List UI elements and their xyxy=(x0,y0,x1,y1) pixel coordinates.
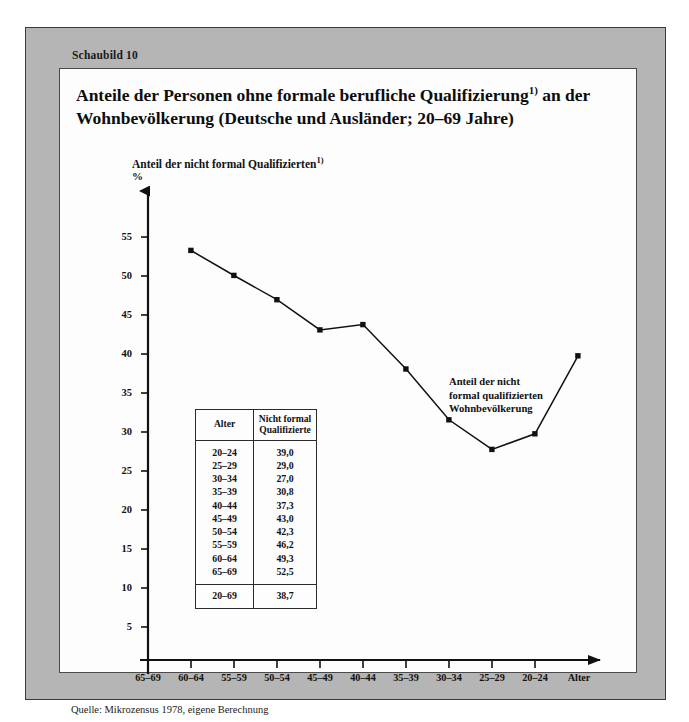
table-cell-value: 43,0 xyxy=(254,513,316,526)
table-row: 40–4437,3 xyxy=(196,499,316,512)
table-cell-age: 50–54 xyxy=(196,526,254,539)
figure-page: Schaubild 10 Anteile der Personen ohne f… xyxy=(0,0,689,722)
table-header-row: Alter Nicht formal Qualifizierte xyxy=(196,410,316,441)
x-tick-label: 20–24 xyxy=(513,672,557,683)
table-row: 35–3930,8 xyxy=(196,486,316,499)
annotation-line-1: Anteil der nicht xyxy=(449,376,520,387)
column-header-line-2: Qualifizierte xyxy=(259,424,311,435)
column-header-unqualified: Nicht formal Qualifizierte xyxy=(254,410,316,441)
table-cell-age: 55–59 xyxy=(196,539,254,552)
table-cell-value: 46,2 xyxy=(254,539,316,552)
y-tick-label: 25 xyxy=(110,465,132,476)
y-tick-label: 10 xyxy=(110,582,132,593)
table-row: 25–2929,0 xyxy=(196,460,316,473)
table-row: 55–5946,2 xyxy=(196,539,316,552)
x-tick-label: 45–49 xyxy=(298,672,342,683)
chart-panel: Anteile der Personen ohne formale berufl… xyxy=(59,68,637,673)
column-header-age: Alter xyxy=(196,410,254,441)
x-tick-label: 25–29 xyxy=(470,672,514,683)
table-row: 65–6952,5 xyxy=(196,566,316,579)
table-cell-value: 49,3 xyxy=(254,552,316,565)
x-tick-label: 40–44 xyxy=(341,672,385,683)
table-cell-value: 29,0 xyxy=(254,460,316,473)
table-cell-age: 30–34 xyxy=(196,473,254,486)
table-cell-age: 25–29 xyxy=(196,460,254,473)
y-tick-label: 30 xyxy=(110,426,132,437)
table-cell-value: 42,3 xyxy=(254,526,316,539)
x-tick-label: 30–34 xyxy=(427,672,471,683)
table-cell-age: 60–64 xyxy=(196,552,254,565)
table-cell-value: 39,0 xyxy=(254,446,316,459)
column-header-line-1: Nicht formal xyxy=(259,413,312,424)
table-cell-age: 40–44 xyxy=(196,499,254,512)
y-tick-label: 20 xyxy=(110,504,132,515)
y-tick-label: 35 xyxy=(110,387,132,398)
x-tick-label: 35–39 xyxy=(384,672,428,683)
table-row: 50–5442,3 xyxy=(196,526,316,539)
table-cell-age: 20–24 xyxy=(196,446,254,459)
x-tick-label: 50–54 xyxy=(255,672,299,683)
table-cell-value: 52,5 xyxy=(254,566,316,579)
x-tick-label: 60–64 xyxy=(169,672,213,683)
y-tick-label: 40 xyxy=(110,348,132,359)
x-tick-label: 55–59 xyxy=(212,672,256,683)
data-table: Alter Nicht formal Qualifizierte 20–2439… xyxy=(195,409,317,609)
source-note: Quelle: Mikrozensus 1978, eigene Berechn… xyxy=(71,704,268,715)
table-cell-value-total: 38,7 xyxy=(254,584,316,607)
table-row: 30–3427,0 xyxy=(196,473,316,486)
y-tick-label: 55 xyxy=(110,231,132,242)
x-tick-label: 65–69 xyxy=(126,672,170,683)
line-chart-plot xyxy=(60,69,638,674)
y-tick-label: 5 xyxy=(110,621,132,632)
table-total-row: 20–6938,7 xyxy=(196,584,316,607)
table-cell-value: 27,0 xyxy=(254,473,316,486)
annotation-line-2: formal qualifizierten xyxy=(449,390,543,401)
y-tick-label: 15 xyxy=(110,543,132,554)
table-cell-age: 65–69 xyxy=(196,566,254,579)
y-tick-label: 50 xyxy=(110,270,132,281)
table-cell-age: 35–39 xyxy=(196,486,254,499)
table-cell-age: 45–49 xyxy=(196,513,254,526)
table-cell-value: 37,3 xyxy=(254,499,316,512)
series-annotation: Anteil der nicht formal qualifizierten W… xyxy=(449,375,543,416)
table-row: 45–4943,0 xyxy=(196,513,316,526)
grey-figure-frame: Schaubild 10 Anteile der Personen ohne f… xyxy=(25,27,666,700)
table-cell-age-total: 20–69 xyxy=(196,584,254,607)
x-axis-title: Alter xyxy=(556,672,602,683)
table-row: 60–6449,3 xyxy=(196,552,316,565)
y-tick-label: 45 xyxy=(110,309,132,320)
figure-number-label: Schaubild 10 xyxy=(72,49,138,61)
table-row: 20–2439,0 xyxy=(196,446,316,459)
annotation-line-3: Wohnbevölkerung xyxy=(449,403,533,414)
table-cell-value: 30,8 xyxy=(254,486,316,499)
